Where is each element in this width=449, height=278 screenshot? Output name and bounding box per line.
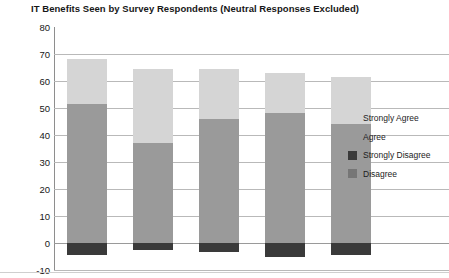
- y-axis-tick-label: 20: [4, 184, 50, 195]
- y-axis-tick-label: -10: [4, 265, 50, 276]
- legend-item-label: Strongly Disagree: [363, 150, 431, 160]
- legend-item[interactable]: Strongly Agree: [348, 109, 447, 128]
- bar-group[interactable]: [67, 27, 107, 270]
- legend-item[interactable]: Agree: [348, 128, 447, 147]
- bar-segment-strongly-disagree[interactable]: [133, 243, 173, 250]
- bar-segment-strongly-agree[interactable]: [265, 73, 305, 114]
- legend-item[interactable]: Strongly Disagree: [348, 146, 447, 165]
- chart-legend: Strongly AgreeAgreeStrongly DisagreeDisa…: [348, 109, 447, 183]
- gridline: [54, 54, 449, 55]
- legend-swatch-icon: [348, 151, 357, 160]
- y-axis-tick-label: 70: [4, 49, 50, 60]
- bar-segment-strongly-disagree[interactable]: [331, 243, 371, 255]
- bar-group[interactable]: [133, 27, 173, 270]
- bottom-rule: [0, 272, 449, 273]
- bar-segment-agree[interactable]: [67, 104, 107, 243]
- bar-segment-agree[interactable]: [133, 143, 173, 243]
- bar-segment-strongly-agree[interactable]: [133, 69, 173, 143]
- y-axis-tick-label: 30: [4, 157, 50, 168]
- bar-segment-strongly-agree[interactable]: [199, 69, 239, 119]
- y-axis-tick-label: 40: [4, 130, 50, 141]
- legend-swatch-icon: [348, 132, 357, 141]
- bar-segment-strongly-disagree[interactable]: [199, 243, 239, 252]
- gridline: [54, 270, 449, 271]
- y-axis-tick-labels: 80706050403020100-10: [0, 27, 50, 270]
- gridline: [54, 216, 449, 217]
- y-axis-tick-label: 80: [4, 22, 50, 33]
- y-axis-tick-label: 10: [4, 211, 50, 222]
- y-axis-tick-label: 50: [4, 103, 50, 114]
- legend-item-label: Agree: [363, 132, 386, 142]
- bar-group[interactable]: [199, 27, 239, 270]
- legend-item[interactable]: Disagree: [348, 165, 447, 184]
- legend-item-label: Strongly Agree: [363, 113, 419, 123]
- bar-segment-strongly-disagree[interactable]: [265, 243, 305, 257]
- gridline: [54, 81, 449, 82]
- bar-group[interactable]: [265, 27, 305, 270]
- legend-swatch-icon: [348, 169, 357, 178]
- bar-segment-strongly-disagree[interactable]: [67, 243, 107, 255]
- legend-swatch-icon: [348, 114, 357, 123]
- gridline: [54, 189, 449, 190]
- bar-segment-strongly-agree[interactable]: [67, 59, 107, 104]
- chart-container: IT Benefits Seen by Survey Respondents (…: [0, 0, 449, 278]
- legend-item-label: Disagree: [363, 169, 397, 179]
- bar-segment-agree[interactable]: [199, 119, 239, 243]
- y-axis-tick-label: 0: [4, 238, 50, 249]
- zero-gridline: [54, 243, 449, 244]
- bar-segment-agree[interactable]: [265, 113, 305, 243]
- chart-title: IT Benefits Seen by Survey Respondents (…: [31, 3, 359, 14]
- y-axis-tick-label: 60: [4, 76, 50, 87]
